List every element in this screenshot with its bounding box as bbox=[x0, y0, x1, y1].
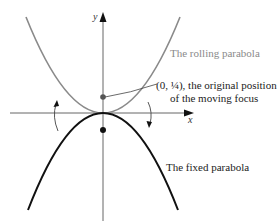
focus-label-line1: (0, ¼), the original position bbox=[156, 80, 277, 91]
y-axis-label: y bbox=[93, 12, 97, 22]
fixed-parabola-label: The fixed parabola bbox=[166, 162, 249, 173]
y-axis-arrow-icon bbox=[100, 12, 107, 22]
parabola-diagram bbox=[0, 0, 280, 221]
x-axis-label: x bbox=[188, 115, 192, 125]
focus-leader-line bbox=[105, 84, 157, 97]
right-arrowhead-icon bbox=[147, 121, 153, 128]
left-rotation-arrow bbox=[54, 104, 58, 131]
rolling-parabola-label: The rolling parabola bbox=[170, 48, 260, 59]
fixed-focus-dot bbox=[100, 127, 106, 133]
original-focus-dot bbox=[100, 94, 106, 100]
focus-label-line2: of the moving focus bbox=[170, 93, 258, 104]
left-arrowhead-icon bbox=[54, 100, 60, 107]
